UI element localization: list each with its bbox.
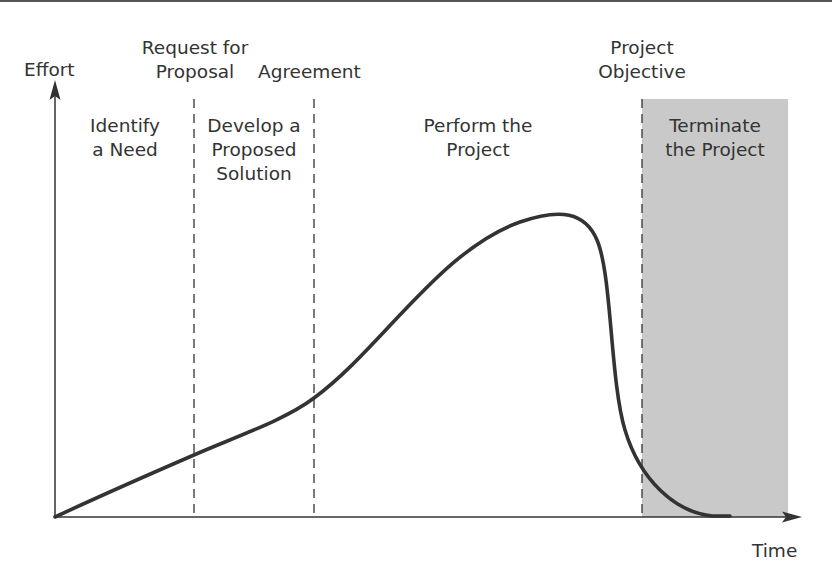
y-axis — [50, 80, 61, 517]
phase-identify-need: Identify a Need — [70, 114, 180, 162]
phase-develop-solution: Develop a Proposed Solution — [198, 114, 310, 186]
x-axis-label: Time — [752, 539, 797, 563]
milestone-agreement-label: Agreement — [258, 60, 361, 84]
y-axis-label: Effort — [24, 58, 75, 82]
phase-perform-project: Perform the Project — [408, 114, 548, 162]
milestone-objective-label: Project Objective — [590, 36, 694, 84]
phase-terminate-project: Terminate the Project — [646, 114, 784, 162]
milestone-rfp-label: Request for Proposal — [128, 36, 262, 84]
effort-diagram — [0, 0, 832, 582]
effort-curve — [55, 214, 730, 517]
